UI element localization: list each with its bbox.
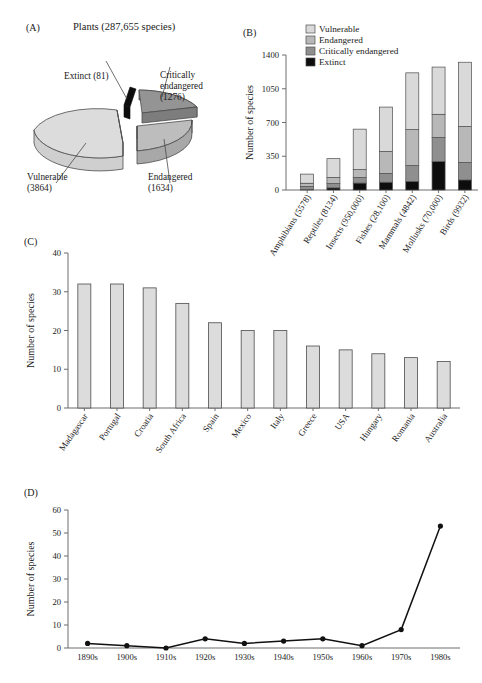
bar-segment xyxy=(380,107,393,151)
bar-segment xyxy=(458,180,471,190)
trend-line xyxy=(88,526,441,648)
svg-text:20: 20 xyxy=(52,326,61,336)
bar xyxy=(143,288,156,408)
svg-text:40: 40 xyxy=(52,248,61,258)
panel-d-line-chart: 0102030405060Number of species1890s1900s… xyxy=(20,500,480,675)
bar xyxy=(176,303,189,408)
bar-segment xyxy=(353,183,366,190)
data-point xyxy=(320,636,325,641)
pie-label-end-line2: (1634) xyxy=(148,183,192,194)
pie-label-endangered: Endangered (1634) xyxy=(148,172,192,194)
svg-text:1400: 1400 xyxy=(262,50,279,60)
svg-text:700: 700 xyxy=(266,118,279,128)
legend-swatch-critically-endangered xyxy=(306,47,315,55)
bar-segment xyxy=(327,184,340,188)
bar xyxy=(78,284,91,408)
panel-d-category-label: 1920s xyxy=(195,652,216,662)
bar-segment xyxy=(406,73,419,130)
data-point xyxy=(163,645,168,650)
bar-segment xyxy=(432,162,445,190)
bar xyxy=(405,358,418,408)
stacked-bar xyxy=(301,174,314,190)
data-point xyxy=(85,641,90,646)
bar xyxy=(241,331,254,409)
svg-text:30: 30 xyxy=(52,574,61,584)
stacked-bar xyxy=(327,159,340,190)
bar xyxy=(437,362,450,409)
panel-d-category-label: 1960s xyxy=(352,652,373,662)
panel-c-category-label: USA xyxy=(333,411,352,432)
stacked-bar xyxy=(458,62,471,190)
svg-text:0: 0 xyxy=(57,403,61,413)
bar-segment xyxy=(458,126,471,162)
pie-label-extinct: Extinct (81) xyxy=(64,71,109,81)
legend-label-vulnerable: Vulnerable xyxy=(319,24,359,34)
bar-segment xyxy=(353,170,366,178)
panel-d-category-label: 1970s xyxy=(391,652,412,662)
panel-c-category-label: Portugal xyxy=(97,411,123,442)
bar-segment xyxy=(380,151,393,173)
panel-c-bar-chart: 010203040Number of speciesMadagascarPort… xyxy=(20,245,480,475)
panel-b-stacked-bar-chart: 035070010501400Number of speciesVulnerab… xyxy=(240,22,482,250)
stacked-bar xyxy=(353,129,366,190)
data-point xyxy=(281,639,286,644)
panel-c-category-label: Spain xyxy=(201,411,221,434)
pie-label-end-line1: Endangered xyxy=(148,172,192,183)
panel-c-category-label: Croatia xyxy=(132,411,155,438)
panel-d-category-label: 1900s xyxy=(117,652,138,662)
legend-label-endangered: Endangered xyxy=(319,35,363,45)
legend-label-extinct: Extinct xyxy=(319,57,346,67)
legend-label-critically-endangered: Critically endangered xyxy=(319,46,399,56)
data-point xyxy=(438,524,443,529)
leader-line-extinct xyxy=(106,61,127,99)
pie-label-critically-endangered: Critically endangered (1276) xyxy=(160,70,203,103)
svg-text:60: 60 xyxy=(52,505,61,515)
svg-text:1050: 1050 xyxy=(262,84,279,94)
bar xyxy=(209,323,222,408)
figure-root: (A) Plants (287,655 species) xyxy=(0,0,482,683)
panel-c-category-label: Hungary xyxy=(358,411,385,443)
panel-d-category-label: 1940s xyxy=(273,652,294,662)
bar-segment xyxy=(380,182,393,190)
data-point xyxy=(359,643,364,648)
svg-text:40: 40 xyxy=(52,551,61,561)
bar-segment xyxy=(432,67,445,114)
panel-c-category-label: South Africa xyxy=(154,411,188,454)
legend-swatch-extinct xyxy=(306,58,315,66)
bar-segment xyxy=(327,177,340,183)
bar xyxy=(307,346,320,408)
panel-d-category-label: 1890s xyxy=(77,652,98,662)
svg-text:10: 10 xyxy=(52,364,61,374)
bar-segment xyxy=(301,174,314,183)
panel-c-category-label: Mexico xyxy=(229,411,253,440)
bar-segment xyxy=(353,129,366,170)
panel-c-category-label: Italy xyxy=(268,411,286,431)
panel-c-y-axis-label: Number of species xyxy=(25,293,36,368)
bar-segment xyxy=(458,162,471,180)
svg-text:0: 0 xyxy=(57,643,61,653)
panel-c-category-label: Australia xyxy=(422,411,449,444)
svg-text:20: 20 xyxy=(52,597,61,607)
bar-segment xyxy=(406,166,419,182)
stacked-bar xyxy=(380,107,393,190)
panel-d-letter: (D) xyxy=(24,487,38,498)
bar xyxy=(339,350,352,408)
pie-label-crit-line1: Critically xyxy=(160,70,203,81)
bar-segment xyxy=(432,114,445,137)
bar xyxy=(372,354,385,408)
panel-a-letter: (A) xyxy=(26,22,40,33)
bar-segment xyxy=(327,159,340,178)
data-point xyxy=(242,641,247,646)
bar-segment xyxy=(406,130,419,166)
data-point xyxy=(203,636,208,641)
bar-segment xyxy=(301,183,314,186)
pie-label-vulnerable: Vulnerable (3864) xyxy=(27,172,68,194)
pie-label-crit-line3: (1276) xyxy=(160,92,203,103)
bar-segment xyxy=(353,177,366,183)
panel-b-y-axis-label: Number of species xyxy=(244,85,255,160)
svg-text:0: 0 xyxy=(275,185,279,195)
panel-c-category-label: Greece xyxy=(296,411,319,438)
legend-swatch-endangered xyxy=(306,36,315,44)
panel-d-category-label: 1950s xyxy=(313,652,334,662)
bar-segment xyxy=(380,173,393,182)
